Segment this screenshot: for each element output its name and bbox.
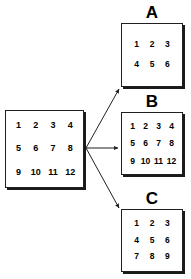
output-matrix-b: 1 2 3 4 5 6 7 8 9 10 11 12 — [121, 112, 183, 175]
source-matrix: 1 2 3 4 5 6 7 8 9 10 11 12 — [5, 110, 84, 188]
matrix-cell: 2 — [150, 219, 155, 228]
matrix-cell: 7 — [156, 139, 161, 148]
matrix-cell: 6 — [165, 236, 170, 245]
matrix-cell: 8 — [169, 139, 174, 148]
matrix-cell: 9 — [165, 252, 170, 261]
output-matrix-c: 1 2 3 4 5 6 7 8 9 — [121, 209, 183, 272]
box-label-c: C — [121, 190, 183, 207]
box-label-a: A — [121, 4, 183, 21]
diagram-canvas: 1 2 3 4 5 6 7 8 9 10 11 12 A 1 2 3 4 5 6… — [0, 0, 191, 279]
matrix-cell: 1 — [134, 40, 139, 49]
matrix-cell: 5 — [130, 139, 135, 148]
matrix-cell: 1 — [16, 121, 21, 130]
output-matrix-a: 1 2 3 4 5 6 — [121, 23, 183, 87]
arrow-to-c — [86, 148, 119, 208]
matrix-cell: 3 — [51, 121, 56, 130]
matrix-cell: 9 — [16, 168, 21, 177]
matrix-cell: 1 — [130, 122, 135, 131]
matrix-cell: 11 — [48, 168, 58, 177]
matrix-cell: 10 — [31, 168, 41, 177]
matrix-cell: 7 — [134, 252, 139, 261]
matrix-cell: 3 — [156, 122, 161, 131]
matrix-cell: 12 — [167, 157, 176, 166]
matrix-cell: 4 — [169, 122, 174, 131]
matrix-cell: 2 — [33, 121, 38, 130]
arrow-to-a — [86, 89, 119, 148]
matrix-cell: 10 — [141, 157, 150, 166]
matrix-cell: 6 — [143, 139, 148, 148]
matrix-cell: 2 — [150, 40, 155, 49]
matrix-cell: 2 — [143, 122, 148, 131]
matrix-cell: 4 — [134, 60, 139, 69]
matrix-cell: 11 — [154, 157, 163, 166]
matrix-cell: 7 — [51, 144, 56, 153]
matrix-cell: 9 — [130, 157, 135, 166]
matrix-cell: 1 — [134, 219, 139, 228]
matrix-cell: 6 — [33, 144, 38, 153]
matrix-cell: 5 — [150, 60, 155, 69]
matrix-cell: 8 — [150, 252, 155, 261]
matrix-cell: 5 — [16, 144, 21, 153]
matrix-cell: 12 — [65, 168, 75, 177]
matrix-cell: 6 — [165, 60, 170, 69]
matrix-cell: 8 — [68, 144, 73, 153]
matrix-cell: 3 — [165, 40, 170, 49]
matrix-cell: 4 — [134, 236, 139, 245]
matrix-cell: 5 — [150, 236, 155, 245]
matrix-cell: 4 — [68, 121, 73, 130]
box-label-b: B — [121, 93, 183, 110]
matrix-cell: 3 — [165, 219, 170, 228]
